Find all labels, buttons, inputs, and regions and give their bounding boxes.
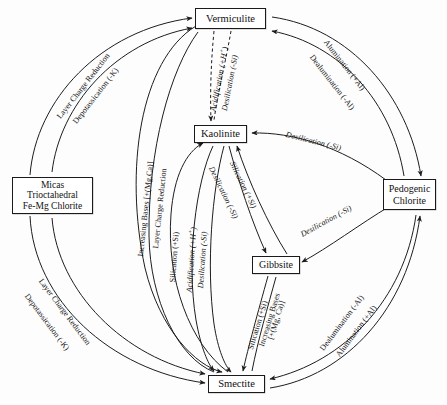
node-vermiculite-label: Vermiculite [206,13,255,25]
node-pedogenic-chlorite[interactable]: Pedogenic Chlorite [383,179,436,210]
node-kaolinite[interactable]: Kaolinite [194,125,247,143]
label-acidification2-tail: ) [189,227,198,230]
node-pedogenic-chlorite-line-1: Pedogenic [389,183,431,194]
node-micas-line-3: Fe-Mg Chlorite [23,201,82,212]
edge-micas-to-smectite-inner [52,218,205,374]
node-kaolinite-label: Kaolinite [201,128,240,140]
edge-smectite-to-pedogenic [270,216,420,388]
node-pedogenic-chlorite-line-2: Chlorite [393,195,426,206]
node-smectite[interactable]: Smectite [208,375,265,393]
node-micas-line-1: Micas [41,180,64,191]
node-vermiculite[interactable]: Vermiculite [195,8,266,29]
node-smectite-label: Smectite [218,378,255,390]
label-acidification2-sup: + [187,229,193,234]
node-gibbsite[interactable]: Gibbsite [252,256,300,274]
node-micas-line-2: Trioctahedral [27,190,78,201]
node-micas[interactable]: Micas Trioctahedral Fe-Mg Chlorite [12,177,93,214]
mineral-transformation-diagram: Micas Trioctahedral Fe-Mg Chlorite Vermi… [0,0,447,405]
node-gibbsite-label: Gibbsite [259,259,293,270]
